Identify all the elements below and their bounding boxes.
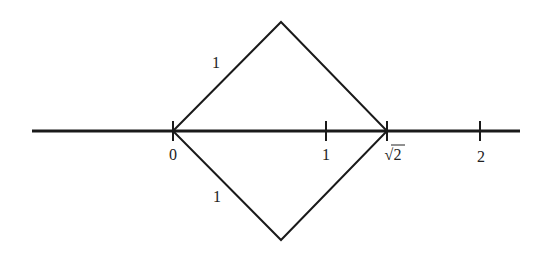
- side-label-upper: 1: [212, 54, 220, 71]
- tick-label-0: 0: [169, 146, 177, 163]
- tick-label-sqrt2: √2: [385, 146, 402, 163]
- tick-label-2: 2: [477, 148, 485, 165]
- side-label-lower: 1: [213, 188, 221, 205]
- tick-label-1: 1: [322, 146, 330, 163]
- number-line-diagram: 0 1 √2 2 1 1: [0, 0, 545, 254]
